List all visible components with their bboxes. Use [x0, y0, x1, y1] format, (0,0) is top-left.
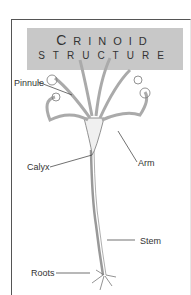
crinoid-illustration: [0, 0, 191, 295]
label-calyx: Calyx: [27, 162, 50, 172]
label-roots: Roots: [31, 268, 55, 278]
label-arm: Arm: [138, 158, 155, 168]
label-stem: Stem: [140, 236, 161, 246]
label-pinnule: Pinnule: [14, 78, 44, 88]
